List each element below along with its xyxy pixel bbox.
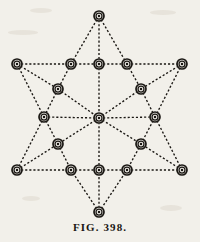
figure-plate: FIG. 398.: [0, 0, 200, 242]
diagram-edge: [44, 117, 99, 118]
diagram-node: [135, 83, 146, 94]
diagram-node: [11, 164, 22, 175]
diagram-edge: [99, 118, 141, 144]
diagram-node: [52, 83, 63, 94]
diagram-node: [93, 10, 104, 21]
diagram-node: [11, 58, 22, 69]
diagram-node: [176, 58, 187, 69]
diagram-edge: [58, 89, 99, 118]
diagram-edge: [99, 16, 127, 64]
diagram-node: [93, 164, 104, 175]
diagram-node: [176, 164, 187, 175]
diagram-node: [149, 111, 160, 122]
diagram-edge: [99, 170, 127, 212]
diagram-edge: [17, 64, 44, 117]
diagram-node: [93, 58, 104, 69]
diagram-node: [38, 111, 49, 122]
diagram-edge: [71, 16, 99, 64]
diagram-edge: [58, 118, 99, 144]
diagram-node: [135, 138, 146, 149]
diagram-node: [121, 164, 132, 175]
diagram-node: [93, 112, 104, 123]
diagram-node: [121, 58, 132, 69]
hexagram-diagram: [0, 0, 200, 224]
figure-caption: FIG. 398.: [0, 221, 200, 233]
diagram-edge: [99, 117, 155, 118]
diagram-node: [93, 206, 104, 217]
diagram-node: [52, 138, 63, 149]
diagram-edge: [99, 89, 141, 118]
diagram-edge: [17, 117, 44, 170]
diagram-edge: [155, 117, 182, 170]
diagram-node: [65, 58, 76, 69]
diagram-edge: [155, 64, 182, 117]
diagram-edge: [71, 170, 99, 212]
diagram-node: [65, 164, 76, 175]
